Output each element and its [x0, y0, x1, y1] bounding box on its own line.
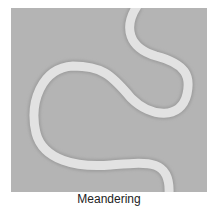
meander-image-panel [11, 8, 207, 192]
image-caption: Meandering [0, 191, 218, 207]
meandering-channel-graphic [11, 8, 207, 192]
